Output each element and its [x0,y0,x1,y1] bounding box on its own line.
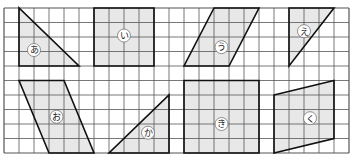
shape-fill-ki [184,81,259,154]
shape-label-o: お [50,110,63,123]
label-text: お [52,112,61,122]
shape-label-u: う [215,41,228,54]
shape-label-ka: か [142,126,155,139]
label-text: く [306,114,315,124]
grid-svg: あいうえおかきく [0,0,354,159]
label-text: い [120,31,129,41]
shape-label-i: い [118,29,131,42]
label-text: か [144,128,153,138]
shape-label-a: あ [28,44,41,57]
label-text: き [217,119,226,129]
shape-label-e: え [298,25,311,38]
label-text: え [300,27,309,37]
shape-label-ku: く [304,112,317,125]
grid-figure-diagram: あいうえおかきく [0,0,354,159]
label-text: う [217,42,226,52]
shape-label-ki: き [215,118,228,131]
label-text: あ [30,45,39,55]
